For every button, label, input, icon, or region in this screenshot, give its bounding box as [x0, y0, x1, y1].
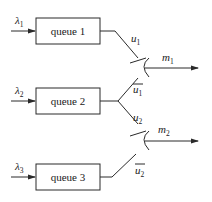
queue-1: λ1 queue 1: [11, 14, 100, 44]
merge-m2: m2: [130, 123, 198, 150]
route-label-u1-bar: u1: [133, 83, 143, 98]
queue-diagram: λ1 queue 1 λ2 queue 2 λ3 queue 3 u1 u1: [0, 0, 212, 202]
queue-label-3: queue 3: [51, 171, 86, 183]
queue-3: λ3 queue 3: [11, 160, 100, 190]
route-label-u2: u2: [133, 111, 143, 126]
queue-2: λ2 queue 2: [11, 84, 100, 114]
arrival-label-1: λ1: [14, 14, 24, 29]
merge-label-m1: m1: [162, 51, 174, 66]
arrival-label-3: λ3: [14, 160, 24, 175]
merge-bar-m1: [130, 58, 146, 63]
arrival-label-2: λ2: [14, 84, 24, 99]
route-u1: u1: [100, 31, 141, 58]
route-queue-2-split: u1 u2: [100, 78, 143, 126]
merge-label-m2: m2: [158, 123, 170, 138]
route-u2-bar: u2: [100, 154, 145, 179]
queue-label-2: queue 2: [51, 95, 86, 107]
queue-label-1: queue 1: [51, 25, 86, 37]
merge-m1: m1: [130, 51, 198, 77]
route-label-u2-bar: u2: [135, 164, 145, 179]
route-label-u1: u1: [131, 32, 141, 47]
merge-bar-m2: [130, 131, 146, 136]
